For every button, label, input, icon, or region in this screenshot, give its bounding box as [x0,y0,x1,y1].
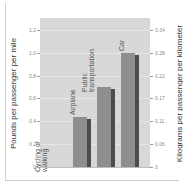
tick-mark [37,144,40,145]
bar-car [121,53,135,167]
tick-mark [37,76,40,77]
tick-mark [150,121,153,122]
tick-mark [150,98,153,99]
label-car: Car [118,40,125,51]
y-axis-title-left: Pounds per passenger per mile [9,29,18,159]
tick-mark [37,167,40,168]
y-tick-right: 0.17 [155,95,175,101]
gridline [40,30,150,31]
y-tick-left: 0 [16,164,36,170]
y-tick-right: 0.06 [155,141,175,147]
tick-mark [150,30,153,31]
tick-mark [37,30,40,31]
tick-mark [37,53,40,54]
bar-car-side [135,55,139,167]
plot-area: Cycling or walking Airplane Public trans… [40,18,150,167]
y-tick-left: 1.2 [16,27,36,33]
tick-mark [150,144,153,145]
tick-mark [150,167,153,168]
y-tick-right: 0.34 [155,27,175,33]
tick-mark [37,98,40,99]
y-tick-right: 0.22 [155,73,175,79]
y-tick-right: 0 [155,164,175,170]
y-tick-left: 0.6 [16,95,36,101]
x-axis-baseline [40,167,150,168]
tick-mark [37,121,40,122]
y-tick-left: 0.4 [16,118,36,124]
y-tick-left: 0.8 [16,73,36,79]
bar-airplane-side [87,119,91,167]
y-tick-left: 0.2 [16,141,36,147]
label-airplane: Airplane [69,89,76,115]
y-tick-right: 0.11 [155,118,175,124]
y-tick-left: 1.0 [16,50,36,56]
tick-mark [150,53,153,54]
y-axis-title-right: Kilograms per passenger per kilometer [175,19,184,169]
y-tick-right: 0.28 [155,50,175,56]
label-public-transportation: Public transportation [81,49,95,92]
tick-mark [150,76,153,77]
bar-public-transportation-side [111,89,115,167]
bar-airplane [73,117,87,167]
bar-public-transportation [97,87,111,167]
